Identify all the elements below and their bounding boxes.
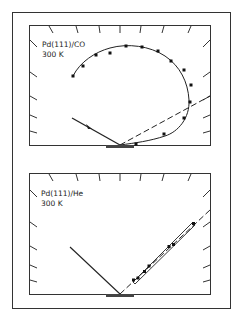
sample-crystal-top bbox=[106, 145, 134, 148]
specular-line-top bbox=[120, 96, 210, 145]
incident-beam-top bbox=[72, 118, 120, 145]
panel-top-label-temperature: 300 K bbox=[42, 50, 65, 59]
panel-bottom: Pd(111)/He 300 K bbox=[30, 174, 211, 298]
data-points-top bbox=[72, 45, 193, 146]
sample-crystal-bottom bbox=[106, 294, 134, 297]
incident-beam-bottom bbox=[70, 247, 120, 294]
panel-top-label-system: Pd(111)/CO bbox=[42, 40, 85, 49]
panel-bottom-label-system: Pd(111)/He bbox=[41, 189, 84, 198]
panel-top: Pd(111)/CO 300 K bbox=[30, 26, 211, 149]
figure: Pd(111)/CO 300 K bbox=[0, 0, 241, 321]
panel-bottom-label-temperature: 300 K bbox=[41, 199, 64, 208]
specular-lobe-bottom bbox=[133, 222, 195, 284]
